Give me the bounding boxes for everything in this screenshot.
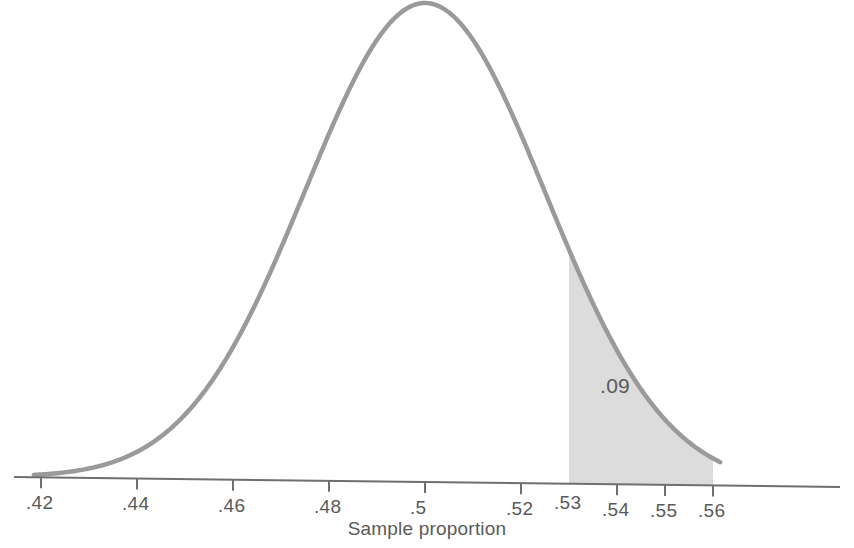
tail-area-label: .09 bbox=[600, 374, 630, 398]
shaded-tail-region bbox=[569, 250, 713, 486]
x-axis-title: Sample proportion bbox=[0, 518, 854, 540]
x-axis-tick-label: .44 bbox=[122, 493, 149, 515]
normal-curve-plot bbox=[0, 0, 854, 548]
x-axis-tick-label: .42 bbox=[26, 492, 53, 514]
sampling-distribution-figure: .42.44.46.48.5.52.53.54.55.56 .09 Sample… bbox=[0, 0, 854, 548]
x-axis-tick-label: .52 bbox=[506, 498, 533, 520]
x-axis-tick-label: .46 bbox=[218, 495, 245, 517]
x-axis-tick-label: .53 bbox=[554, 492, 581, 514]
x-axis-tick-label: .5 bbox=[410, 497, 426, 519]
x-axis-tick-label: .48 bbox=[314, 496, 341, 518]
